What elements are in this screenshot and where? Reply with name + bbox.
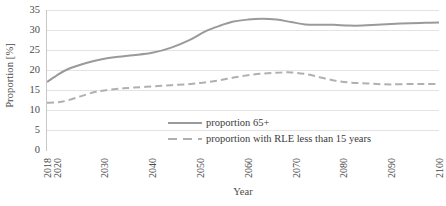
legend-label: proportion with RLE less than 15 years (206, 134, 371, 145)
y-tick-label: 0 (18, 145, 40, 156)
legend-swatch-solid (168, 118, 202, 128)
y-tick-label: 25 (18, 45, 40, 56)
x-tick-label-text: 2070 (290, 158, 301, 178)
x-tick-label-text: 2060 (242, 158, 253, 178)
x-axis-title: Year (47, 186, 439, 197)
y-tick-label: 35 (18, 5, 40, 16)
y-tick-label: 10 (18, 105, 40, 116)
legend-label: proportion 65+ (206, 118, 269, 129)
x-tick-label-text: 2040 (147, 158, 158, 178)
y-tick-label: 5 (18, 125, 40, 136)
y-tick-label: 30 (18, 25, 40, 36)
x-tick-label-text: 2090 (386, 158, 397, 178)
x-tick-label-text: 2080 (338, 158, 349, 178)
x-tick-label-text: 2020 (51, 158, 62, 178)
chart-legend: proportion 65+proportion with RLE less t… (168, 115, 371, 147)
y-tick-label: 15 (18, 85, 40, 96)
legend-item: proportion 65+ (168, 115, 371, 131)
y-axis-tick-labels: 05101520253035 (18, 0, 40, 150)
x-tick-label-text: 2050 (194, 158, 205, 178)
y-axis-title: Proportion [%] (0, 0, 18, 150)
x-tick-label-text: 2100 (434, 158, 445, 178)
x-tick-label-text: 2030 (99, 158, 110, 178)
legend-swatch-dashed (168, 134, 202, 144)
chart-figure: Proportion [%] 05101520253035 2018202020… (0, 0, 446, 206)
y-axis-title-text: Proportion [%] (4, 43, 15, 108)
legend-item: proportion with RLE less than 15 years (168, 131, 371, 147)
series-line-1 (47, 72, 439, 102)
y-tick-label: 20 (18, 65, 40, 76)
